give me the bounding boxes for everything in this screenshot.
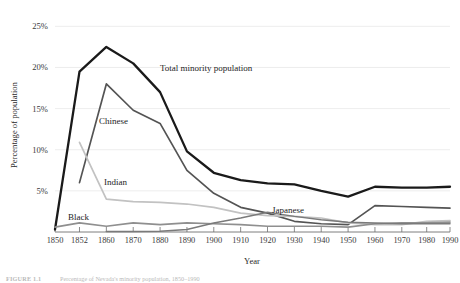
line-chart: 5%10%15%20%25% 1850185218601870188018901… bbox=[0, 0, 460, 283]
x-tick-label: 1960 bbox=[367, 236, 384, 245]
x-tick-label: 1910 bbox=[232, 236, 249, 245]
x-tick-label: 1880 bbox=[152, 236, 169, 245]
y-tick-label: 25% bbox=[32, 21, 48, 31]
y-axis-title: Percentage of population bbox=[9, 81, 19, 168]
y-tick-label: 10% bbox=[32, 145, 48, 155]
x-tick-label: 1970 bbox=[393, 236, 410, 245]
x-tick-label: 1980 bbox=[418, 236, 435, 245]
series-label: Total minority population bbox=[160, 63, 253, 73]
x-tick-label: 1950 bbox=[340, 236, 357, 245]
figure-container: 5%10%15%20%25% 1850185218601870188018901… bbox=[0, 0, 460, 283]
x-tick-label: 1860 bbox=[98, 236, 115, 245]
series-label: Chinese bbox=[99, 116, 128, 126]
x-tick-label: 1920 bbox=[259, 236, 276, 245]
series-inline-labels: Total minority populationChineseIndianBl… bbox=[68, 63, 304, 222]
y-tick-label: 15% bbox=[32, 104, 48, 114]
x-tick-label: 1940 bbox=[313, 236, 330, 245]
x-axis-title: Year bbox=[244, 256, 260, 266]
y-axis-tick-labels: 5%10%15%20%25% bbox=[32, 21, 48, 196]
x-tick-label: 1870 bbox=[125, 236, 142, 245]
y-tick-label: 20% bbox=[32, 62, 48, 72]
x-tick-label: 1850 bbox=[47, 236, 64, 245]
x-tick-label: 1852 bbox=[71, 236, 88, 245]
x-tick-label: 1890 bbox=[179, 236, 196, 245]
data-series bbox=[55, 47, 450, 232]
x-tick-label: 1900 bbox=[205, 236, 222, 245]
series-label: Indian bbox=[104, 177, 127, 187]
figure-caption-text: Percentage of Nevada's minority populati… bbox=[60, 275, 200, 282]
x-axis-tick-labels: 1850185218601870188018901900191019201930… bbox=[47, 236, 459, 245]
x-tick-label: 1990 bbox=[442, 236, 459, 245]
series-label: Japanese bbox=[272, 205, 304, 215]
x-tick-label: 1930 bbox=[286, 236, 303, 245]
series-line bbox=[55, 47, 450, 230]
series-line bbox=[79, 84, 450, 225]
series-label: Black bbox=[68, 212, 89, 222]
figure-caption-label: FIGURE 1.1 bbox=[6, 275, 41, 282]
y-tick-label: 5% bbox=[37, 186, 48, 196]
